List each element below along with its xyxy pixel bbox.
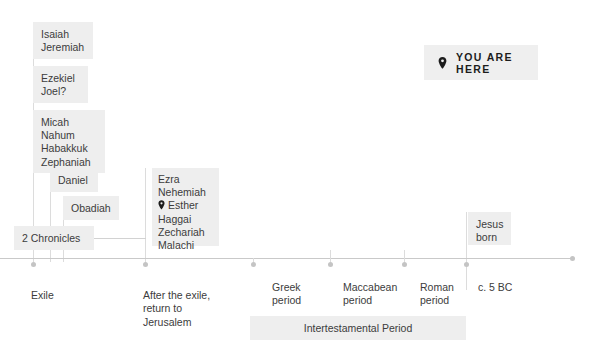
- axis-dot-exile: [31, 262, 36, 267]
- axis-dot-c-5-bc: [464, 262, 469, 267]
- you-are-here-label: YOU ARE HERE: [456, 51, 524, 75]
- timeline-infographic: YOU ARE HERE Isaiah Jeremiah Ezekiel Joe…: [0, 0, 603, 362]
- chip-isaiah-jeremiah: Isaiah Jeremiah: [33, 22, 93, 59]
- map-pin-icon: [438, 57, 447, 69]
- connector-line-post-exile: [145, 168, 146, 264]
- band-intertestamental-period-label: Intertestamental Period: [304, 322, 413, 334]
- axis-label-greek-period: Greek period: [272, 281, 301, 308]
- post-exile-line-haggai: Haggai: [158, 213, 213, 226]
- post-exile-line-zechariah: Zechariah: [158, 226, 213, 239]
- axis-label-roman-period: Roman period: [420, 281, 454, 308]
- connector-line-jesus-born: [466, 212, 467, 290]
- chip-obadiah: Obadiah: [63, 196, 119, 220]
- chip-ezekiel-joel: Ezekiel Joel?: [33, 66, 88, 103]
- axis-dot-end: [570, 256, 575, 261]
- axis-dot-after-the-exile: [143, 262, 148, 267]
- chip-post-exile-books: Ezra Nehemiah Esther Haggai Zechariah Ma…: [152, 168, 219, 246]
- chip-two-chronicles: 2 Chronicles: [14, 226, 94, 250]
- post-exile-line-malachi: Malachi: [158, 239, 213, 252]
- axis-label-maccabean-period: Maccabean period: [343, 281, 397, 308]
- post-exile-line-ezra: Ezra: [158, 173, 213, 186]
- axis-dot-maccabean-period: [328, 262, 333, 267]
- axis-label-c-5-bc: c. 5 BC: [478, 281, 512, 294]
- post-exile-line-esther-row: Esther: [158, 199, 213, 212]
- post-exile-line-esther: Esther: [168, 199, 198, 212]
- chip-jesus-born: Jesus born: [468, 212, 511, 245]
- axis-label-exile: Exile: [31, 289, 54, 302]
- timeline-axis: [0, 258, 573, 259]
- post-exile-line-nehemiah: Nehemiah: [158, 186, 213, 199]
- you-are-here-badge[interactable]: YOU ARE HERE: [424, 45, 538, 80]
- axis-dot-roman-period: [402, 262, 407, 267]
- map-pin-icon: [158, 200, 165, 210]
- axis-label-after-the-exile: After the exile, return to Jerusalem: [143, 289, 210, 329]
- band-intertestamental-period: Intertestamental Period: [250, 316, 466, 340]
- chip-micah-nahum-habakkuk-zephaniah: Micah Nahum Habakkuk Zephaniah: [33, 110, 105, 173]
- axis-dot-greek-period: [251, 262, 256, 267]
- chip-daniel: Daniel: [50, 168, 98, 192]
